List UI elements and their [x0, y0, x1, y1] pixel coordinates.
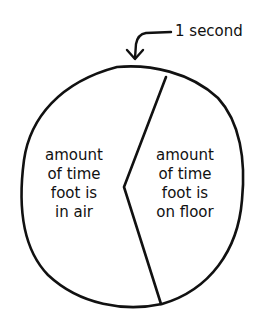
label-line: of time: [22, 165, 126, 184]
annotation-label: 1 second: [175, 22, 243, 40]
label-line: of time: [130, 165, 240, 184]
label-line: amount: [22, 146, 126, 165]
slice-label-in-air: amount of time foot is in air: [22, 146, 126, 222]
label-line: foot is: [130, 184, 240, 203]
slice-label-on-floor: amount of time foot is on floor: [130, 146, 240, 222]
label-line: in air: [22, 203, 126, 222]
label-line: amount: [130, 146, 240, 165]
label-line: on floor: [130, 203, 240, 222]
label-line: foot is: [22, 184, 126, 203]
